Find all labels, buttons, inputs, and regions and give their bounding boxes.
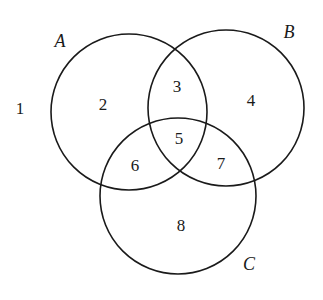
region-label-7: 7 — [217, 154, 226, 173]
set-label-b: B — [284, 22, 295, 42]
region-label-3: 3 — [173, 77, 182, 96]
venn-diagram: A B C 1 2 3 4 5 6 7 8 — [0, 0, 323, 300]
region-label-6: 6 — [131, 156, 140, 175]
circle-a — [51, 34, 207, 190]
set-label-c: C — [243, 254, 256, 274]
set-label-a: A — [54, 31, 67, 51]
region-label-4: 4 — [247, 91, 256, 110]
region-label-1: 1 — [16, 99, 25, 118]
region-label-8: 8 — [177, 216, 186, 235]
circle-b — [148, 30, 304, 186]
region-label-2: 2 — [99, 95, 108, 114]
region-label-5: 5 — [175, 129, 184, 148]
